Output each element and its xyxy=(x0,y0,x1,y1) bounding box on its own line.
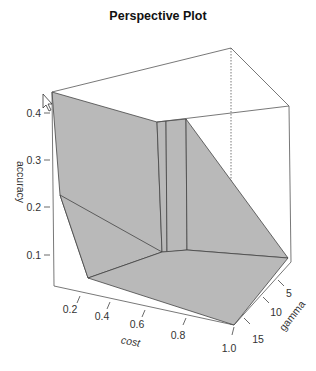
y-tick-label: 10 xyxy=(270,306,282,318)
x-tick-label: 0.4 xyxy=(95,310,110,322)
y-tick-label: 5 xyxy=(286,287,292,299)
perspective-plot: 0.4 0.3 0.2 0.1 accuracy 0.2 0.4 0.6 0.8… xyxy=(0,0,316,371)
x-tick-label: 0.2 xyxy=(63,303,78,315)
y-tick-label: 15 xyxy=(252,333,264,345)
x-axis-label: cost xyxy=(120,333,142,348)
surface xyxy=(52,92,288,325)
z-axis-ticks xyxy=(44,113,50,255)
z-tick-label: 0.1 xyxy=(26,249,41,261)
z-axis-label: accuracy xyxy=(15,161,27,204)
x-tick-label: 0.8 xyxy=(171,329,186,341)
x-tick-label: 1.0 xyxy=(222,342,237,354)
z-tick-label: 0.2 xyxy=(26,201,41,213)
z-tick-label: 0.4 xyxy=(26,107,41,119)
mouse-cursor-icon xyxy=(43,94,52,111)
z-tick-label: 0.3 xyxy=(26,154,41,166)
x-tick-label: 0.6 xyxy=(130,318,145,330)
